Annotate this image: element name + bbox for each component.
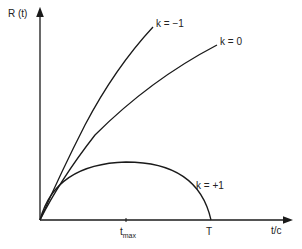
plot-area <box>0 0 302 249</box>
tmax-label: tmax <box>120 226 136 239</box>
curve-k-0 <box>40 45 217 220</box>
curve-k-minus-1 <box>40 27 153 220</box>
y-axis-label: R (t) <box>8 8 27 19</box>
curve-k-plus-1 <box>40 162 211 220</box>
label-k-0: k = 0 <box>220 36 242 47</box>
T-label: T <box>206 226 212 237</box>
label-k-minus-1: k = −1 <box>156 18 184 29</box>
label-k-plus-1: k = +1 <box>196 180 224 191</box>
x-axis-label: t/c <box>271 225 282 236</box>
diagram: R (t) t/c tmax T k = −1 k = 0 k = +1 <box>0 0 302 249</box>
